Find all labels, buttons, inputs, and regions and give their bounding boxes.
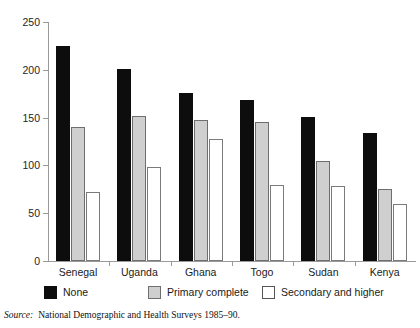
bar-secondary: [147, 167, 161, 261]
bar-group: [301, 22, 345, 261]
chart-legend: NonePrimary completeSecondary and higher: [0, 286, 420, 306]
y-tick: [43, 70, 48, 71]
bar-secondary: [270, 185, 284, 261]
source-note: Source:National Demographic and Health S…: [4, 311, 240, 321]
y-tick-label: 150: [22, 112, 40, 123]
y-tick: [43, 165, 48, 166]
x-tick: [232, 261, 233, 266]
y-tick: [43, 118, 48, 119]
y-tick: [43, 22, 48, 23]
x-tick: [171, 261, 172, 266]
bar-group: [117, 22, 161, 261]
category-label: Togo: [251, 267, 274, 278]
bar-secondary: [86, 192, 100, 261]
bar-group: [56, 22, 100, 261]
bar-group: [240, 22, 284, 261]
white-square-swatch: [262, 286, 275, 299]
y-axis-line: [48, 22, 49, 261]
bar-none: [240, 100, 254, 261]
bar-none: [56, 46, 70, 261]
y-tick-label: 0: [34, 256, 40, 267]
category-label: Uganda: [121, 267, 158, 278]
bar-group: [363, 22, 407, 261]
category-label: Senegal: [59, 267, 98, 278]
bar-primary: [255, 122, 269, 261]
y-tick: [43, 261, 48, 262]
y-tick: [43, 213, 48, 214]
y-tick-label: 250: [22, 17, 40, 28]
bar-primary: [194, 120, 208, 261]
bar-group: [179, 22, 223, 261]
bar-none: [179, 93, 193, 261]
legend-label: Primary complete: [167, 287, 249, 298]
category-label: Ghana: [185, 267, 217, 278]
legend-item[interactable]: Primary complete: [148, 286, 249, 299]
bar-secondary: [209, 139, 223, 261]
source-label: Source:: [4, 310, 33, 320]
x-tick: [293, 261, 294, 266]
y-tick-label: 100: [22, 160, 40, 171]
bar-none: [117, 69, 131, 261]
x-tick: [355, 261, 356, 266]
legend-label: Secondary and higher: [281, 287, 384, 298]
legend-item[interactable]: Secondary and higher: [262, 286, 384, 299]
black-square-swatch: [44, 286, 57, 299]
bar-none: [363, 133, 377, 261]
legend-label: None: [63, 287, 88, 298]
bar-primary: [71, 127, 85, 261]
source-text: National Demographic and Health Surveys …: [38, 310, 240, 320]
bar-primary: [316, 161, 330, 261]
bar-secondary: [393, 204, 407, 261]
y-tick-label: 50: [28, 208, 40, 219]
category-label: Sudan: [308, 267, 338, 278]
bar-secondary: [331, 186, 345, 261]
legend-item[interactable]: None: [44, 286, 88, 299]
chart-page: 050100150200250 SenegalUgandaGhanaTogoSu…: [0, 0, 420, 328]
category-label: Kenya: [370, 267, 400, 278]
bar-primary: [132, 116, 146, 261]
cropped-caption-sliver: [8, 0, 188, 1]
bar-none: [301, 117, 315, 261]
gray-square-swatch: [148, 286, 161, 299]
bar-primary: [378, 189, 392, 261]
x-tick: [109, 261, 110, 266]
plot-area: 050100150200250 SenegalUgandaGhanaTogoSu…: [48, 22, 416, 261]
y-tick-label: 200: [22, 65, 40, 76]
